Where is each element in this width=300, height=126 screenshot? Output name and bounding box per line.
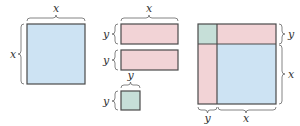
x-square-top-label: x [53, 2, 60, 15]
xy-rect-tile-2: y [102, 50, 178, 70]
x-square-side-label: x [10, 48, 17, 61]
y-square-side-label: y [102, 95, 110, 108]
xy-rect-1-side-label: y [102, 28, 110, 41]
y-square-top-label: y [126, 69, 134, 82]
side-brace-icon [112, 91, 118, 110]
xy-rect-2-side-label: y [102, 54, 110, 67]
composite-bottom-right-label: x [243, 112, 250, 125]
x-squared-tile: x x [10, 2, 85, 84]
xy-rect-top-label: x [146, 2, 153, 15]
top-brace-icon [27, 15, 85, 21]
top-brace-icon [121, 15, 178, 21]
composite-right-bottom-label: x [288, 68, 295, 81]
composite-square: y x y x [198, 24, 295, 125]
right-brace-icon [279, 24, 285, 44]
top-brace-icon [121, 82, 140, 88]
composite-right-top-label: y [287, 28, 295, 41]
y-squared-tile: y y [102, 69, 140, 110]
side-brace-icon [112, 50, 118, 70]
right-brace-icon [279, 45, 285, 104]
side-brace-icon [18, 24, 24, 84]
side-brace-icon [112, 24, 118, 44]
xy-rect-tile-1: x y [102, 2, 178, 44]
algebra-tiles-diagram: x x x y y y y y x [0, 0, 300, 126]
composite-bottom-left-label: y [203, 112, 211, 125]
